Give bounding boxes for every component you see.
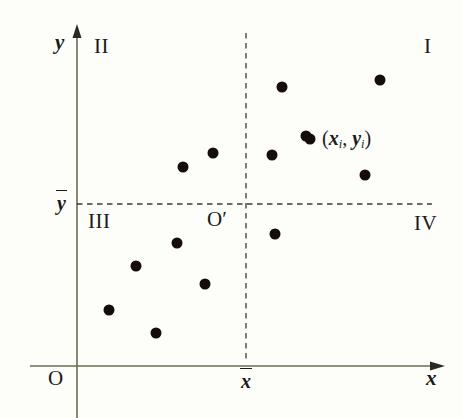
y-mean-text: y — [57, 193, 66, 213]
data-point — [200, 279, 211, 290]
mean-origin-prime: ′ — [222, 207, 227, 231]
annotation-comma: , — [342, 127, 352, 149]
data-point — [178, 162, 189, 173]
quadrant-label-two: II — [94, 36, 109, 57]
quadrant-label-one: I — [424, 36, 432, 57]
quadrant-label-three: III — [88, 211, 110, 232]
origin-label: O — [48, 368, 63, 389]
plot-canvas — [0, 0, 462, 418]
annotation-x-subscript: i — [339, 137, 342, 151]
y-axis — [73, 24, 82, 418]
annotation-close-paren: ) — [364, 127, 371, 149]
x-axis-label: x — [426, 368, 437, 389]
annotation-y-subscript: i — [361, 137, 364, 151]
data-point — [208, 148, 219, 159]
annotation-y-var: y — [352, 127, 361, 149]
data-point — [267, 150, 278, 161]
mean-origin-label: O′ — [207, 209, 227, 230]
data-point — [375, 75, 386, 86]
quadrant-label-four: IV — [414, 213, 437, 234]
annotated-data-point — [301, 131, 312, 142]
point-coordinate-annotation: (xi, yi) — [322, 128, 371, 148]
annotation-x-var: x — [329, 127, 339, 149]
data-point — [131, 261, 142, 272]
data-point — [104, 305, 115, 316]
scatter-plot-figure: II I III IV y x O O′ x y (xi, yi) — [0, 0, 462, 418]
mean-origin-letter: O — [207, 207, 222, 231]
data-point — [277, 82, 288, 93]
y-mean-label: y — [57, 193, 66, 213]
x-mean-text: x — [241, 371, 251, 391]
data-point — [172, 238, 183, 249]
data-point — [270, 229, 281, 240]
x-axis — [30, 362, 445, 371]
data-point — [360, 170, 371, 181]
data-points-group — [104, 75, 386, 339]
data-point — [151, 328, 162, 339]
x-mean-label: x — [241, 371, 251, 391]
annotation-open-paren: ( — [322, 127, 329, 149]
y-axis-label: y — [55, 32, 64, 53]
